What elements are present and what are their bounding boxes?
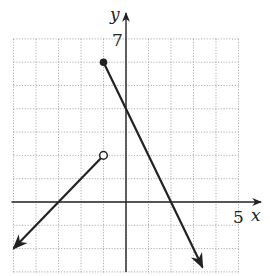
right-piece-line	[104, 62, 203, 267]
closed-dot-endpoint	[100, 58, 108, 66]
y-tick-label-7: 7	[112, 30, 123, 50]
x-tick-label-5: 5	[233, 207, 244, 227]
open-circle-endpoint	[100, 152, 108, 160]
x-axis-label: x	[251, 205, 261, 225]
axes	[12, 13, 262, 272]
function-pieces	[14, 58, 203, 267]
piecewise-function-graph: y 7 5 x	[0, 0, 270, 276]
y-axis-label: y	[109, 4, 120, 24]
